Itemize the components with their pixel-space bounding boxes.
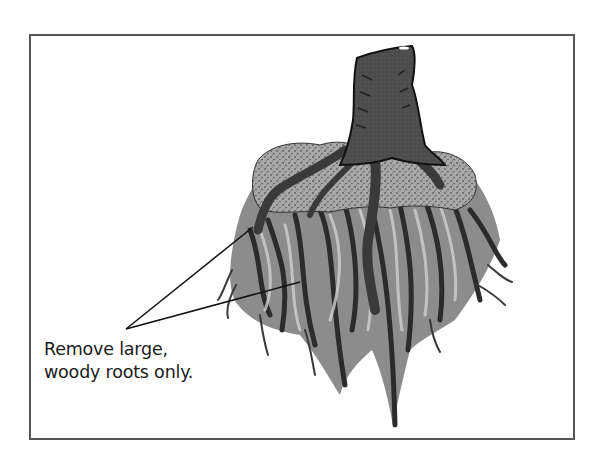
figure-caption: Remove large, woody roots only. xyxy=(44,338,193,384)
root-ball-illustration xyxy=(0,0,609,459)
caption-line-2: woody roots only. xyxy=(44,361,193,384)
caption-line-1: Remove large, xyxy=(44,338,193,361)
stump xyxy=(340,46,445,165)
stump-highlight xyxy=(399,47,409,50)
